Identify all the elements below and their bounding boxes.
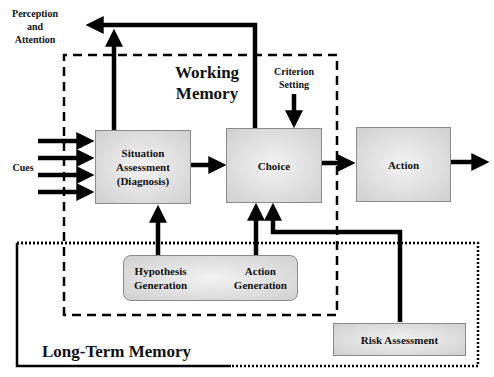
hypothesis-generation-label: Hypothesis Generation: [134, 264, 187, 292]
perception-attention-label: Perception and Attention: [2, 7, 68, 46]
perception-line-3: Attention: [2, 33, 68, 46]
sa-line-3: (Diagnosis): [116, 174, 170, 188]
sa-line-1: Situation: [116, 146, 170, 160]
action-node: Action: [356, 127, 451, 202]
perception-line-2: and: [2, 20, 68, 33]
action-generation-label: Action Generation: [234, 264, 287, 292]
sa-line-2: Assessment: [116, 160, 170, 174]
cues-label: Cues: [6, 161, 40, 174]
generation-node: Hypothesis Generation Action Generation: [123, 255, 298, 301]
perception-line-1: Perception: [2, 7, 68, 20]
criterion-setting-label: Criterion Setting: [262, 65, 326, 91]
decision-model-diagram: Perception and Attention Working Memory …: [0, 0, 494, 377]
ag-line-1: Action: [234, 264, 287, 278]
working-memory-line-2: Memory: [163, 83, 251, 104]
hg-line-2: Generation: [134, 278, 187, 292]
working-memory-label: Working Memory: [163, 62, 251, 104]
situation-assessment-node: Situation Assessment (Diagnosis): [95, 130, 191, 204]
ag-line-2: Generation: [234, 278, 287, 292]
criterion-line-2: Setting: [262, 78, 326, 91]
criterion-line-1: Criterion: [262, 65, 326, 78]
choice-node: Choice: [226, 128, 322, 203]
working-memory-line-1: Working: [163, 62, 251, 83]
risk-assessment-node: Risk Assessment: [333, 323, 466, 356]
long-term-memory-label: Long-Term Memory: [42, 342, 222, 362]
hg-line-1: Hypothesis: [134, 264, 187, 278]
